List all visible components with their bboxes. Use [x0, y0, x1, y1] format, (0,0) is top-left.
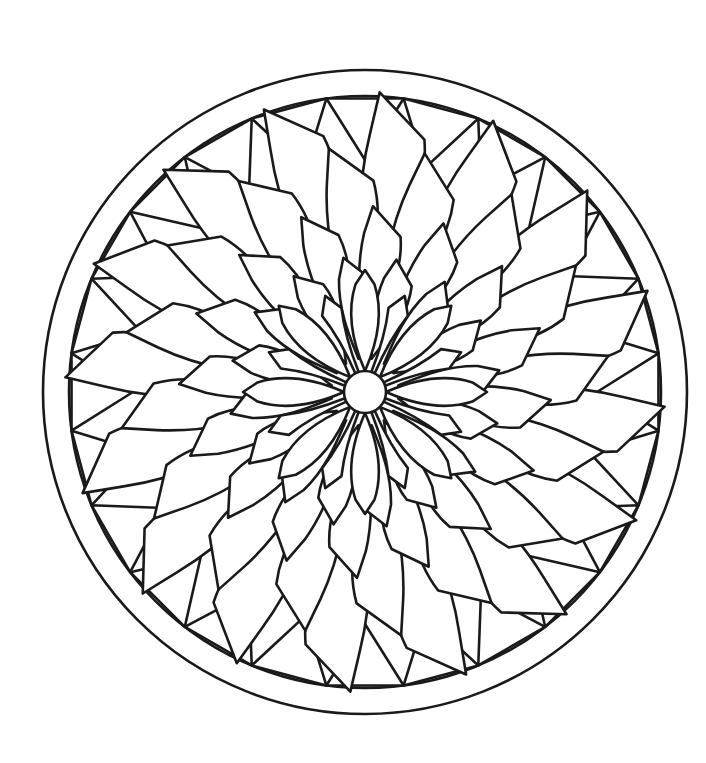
- center-circle: [344, 371, 386, 413]
- coloring-page-canvas: [0, 0, 706, 763]
- mandala-root: [43, 70, 687, 714]
- mandala-artwork: [0, 0, 706, 763]
- ring-center-circle: [344, 371, 386, 413]
